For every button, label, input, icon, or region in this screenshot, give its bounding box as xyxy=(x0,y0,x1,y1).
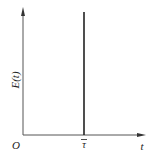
tau-tick-label: τ xyxy=(82,139,86,150)
origin-label: O xyxy=(12,139,20,151)
y-axis-arrow-icon xyxy=(21,7,25,16)
x-axis-label: t xyxy=(140,140,144,152)
y-axis-label: E(t) xyxy=(9,71,22,89)
diagram-canvas: E(t) O τ t xyxy=(0,0,155,156)
x-axis-arrow-icon xyxy=(137,133,146,137)
